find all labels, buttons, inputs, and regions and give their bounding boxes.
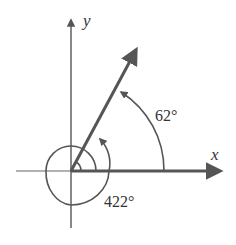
x-axis-label: x xyxy=(210,145,219,164)
angle-diagram: y x 62° 422° xyxy=(0,0,236,245)
angle-arc-62 xyxy=(121,92,164,171)
angle-label-62: 62° xyxy=(155,107,177,124)
terminal-side-ray xyxy=(71,50,136,171)
angle-label-422: 422° xyxy=(104,193,134,210)
y-axis-label: y xyxy=(81,11,91,30)
